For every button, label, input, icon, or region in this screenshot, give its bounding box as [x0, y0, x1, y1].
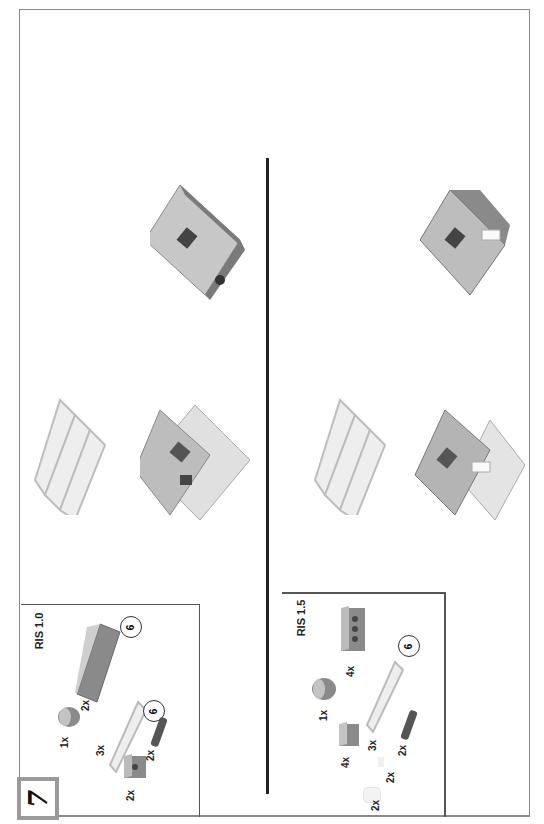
qty-label: 3x — [95, 745, 106, 756]
model-ris15-step-a — [410, 400, 530, 530]
technic-brick-1x2 — [120, 752, 150, 782]
qty-label: 2x — [370, 800, 381, 811]
model-ris1-step-a — [140, 400, 255, 525]
qty-label: 3x — [367, 740, 378, 751]
model-ris1-step-b — [150, 180, 255, 300]
technic-pin — [400, 708, 420, 742]
qty-label: 2x — [125, 790, 136, 801]
parts-box-title: RIS 1.0 — [33, 613, 45, 650]
qty-label: 2x — [397, 745, 408, 756]
brick-2x6-dark-gray — [75, 622, 125, 704]
plate-1x6-light-gray — [365, 660, 405, 735]
multiplier-badge: 6 — [120, 616, 142, 638]
qty-label: 1x — [59, 737, 70, 748]
qty-label: 1x — [318, 710, 329, 721]
model-ris15-step-b — [420, 180, 520, 305]
round-brick-2x2 — [56, 705, 82, 729]
small-white-part — [378, 757, 384, 767]
step-number-box: 7 — [17, 777, 59, 820]
plates-stack-1 — [30, 395, 110, 515]
qty-label: 2x — [385, 772, 396, 783]
qty-label: 4x — [345, 666, 356, 677]
technic-brick-1x4 — [335, 605, 371, 655]
brick-2x2 — [335, 720, 363, 750]
parts-box-title: RIS 1.5 — [295, 600, 307, 637]
section-divider — [266, 158, 269, 794]
multiplier-badge: 6 — [398, 635, 420, 657]
round-brick-2x2 — [310, 675, 338, 703]
technic-pin — [150, 715, 170, 749]
step-number: 7 — [25, 789, 51, 807]
plates-stack-2 — [310, 395, 390, 515]
qty-label: 4x — [340, 757, 351, 768]
